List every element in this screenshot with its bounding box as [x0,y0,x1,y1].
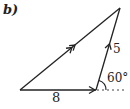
resultant-vector [20,8,120,90]
base-length-label: 8 [52,91,60,104]
part-label: b) [3,3,18,16]
angle-arc [99,81,106,91]
angle-label: 60° [107,72,128,84]
side-length-label: 5 [113,43,121,55]
vector-triangle-diagram [0,0,130,109]
